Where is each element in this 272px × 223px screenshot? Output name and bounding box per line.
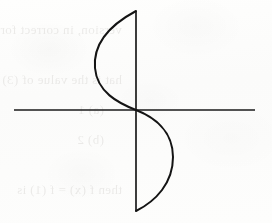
coordinate-graph-figure: [0, 0, 272, 223]
scanned-page: version, in correct formhat is the value…: [0, 0, 272, 223]
s-curve: [95, 11, 173, 211]
axes-group: [14, 11, 255, 211]
